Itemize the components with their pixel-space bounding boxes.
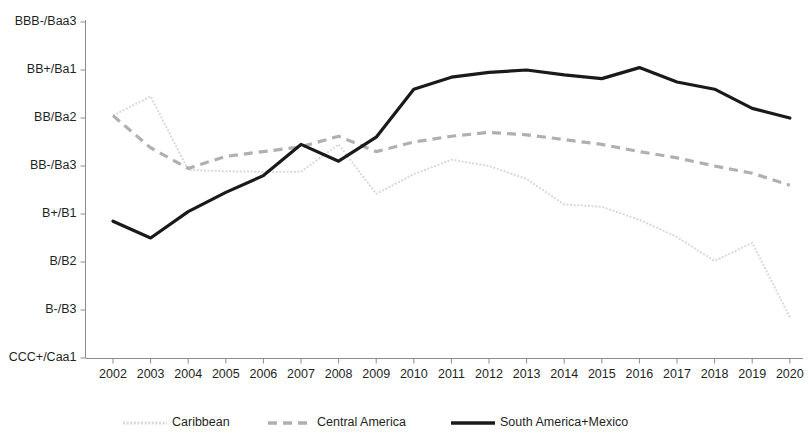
x-axis-tick-label: 2011 (438, 367, 465, 381)
chart-canvas: CCC+/Caa1B-/B3B/B2B+/B1BB-/Ba3BB/Ba2BB+/… (0, 0, 809, 437)
x-axis-tick-label: 2009 (362, 367, 390, 381)
y-axis-tick-label: BBB-/Baa3 (15, 14, 77, 28)
legend-item-caribbean: Caribbean (123, 415, 230, 429)
series-line-south-america-mexico (113, 68, 790, 238)
data-series-group (113, 68, 790, 318)
series-line-caribbean (113, 96, 790, 317)
y-axis-tick-labels: CCC+/Caa1B-/B3B/B2B+/B1BB-/Ba3BB/Ba2BB+/… (9, 14, 77, 364)
y-axis-ticks (81, 22, 86, 358)
x-axis: 2002200320042005200620072008200920102011… (86, 359, 804, 382)
chart-legend: Caribbean Central America South America+… (123, 415, 628, 429)
y-axis-tick-label: B/B2 (49, 254, 76, 268)
x-axis-tick-label: 2020 (776, 367, 804, 381)
y-axis-tick-label: BB/Ba2 (34, 110, 76, 124)
legend-label-caribbean: Caribbean (172, 415, 230, 429)
y-axis: CCC+/Caa1B-/B3B/B2B+/B1BB-/Ba3BB/Ba2BB+/… (9, 14, 86, 364)
legend-label-south-america-mexico: South America+Mexico (500, 415, 628, 429)
x-axis-tick-label: 2014 (550, 367, 578, 381)
x-axis-tick-label: 2003 (137, 367, 165, 381)
y-axis-tick-label: B+/B1 (42, 206, 76, 220)
y-axis-tick-label: CCC+/Caa1 (9, 350, 77, 364)
y-axis-tick-label: B-/B3 (45, 302, 76, 316)
x-axis-tick-label: 2002 (99, 367, 127, 381)
x-axis-tick-label: 2013 (513, 367, 541, 381)
x-axis-tick-label: 2015 (588, 367, 616, 381)
x-axis-tick-label: 2005 (212, 367, 240, 381)
x-axis-tick-label: 2007 (287, 367, 315, 381)
x-axis-tick-labels: 2002200320042005200620072008200920102011… (99, 367, 804, 381)
x-axis-tick-label: 2018 (701, 367, 729, 381)
x-axis-tick-label: 2016 (625, 367, 653, 381)
legend-label-central-america: Central America (317, 415, 406, 429)
x-axis-tick-label: 2004 (174, 367, 202, 381)
x-axis-tick-label: 2019 (738, 367, 766, 381)
x-axis-tick-label: 2012 (475, 367, 503, 381)
y-axis-tick-label: BB+/Ba1 (27, 62, 77, 76)
x-axis-tick-label: 2006 (249, 367, 277, 381)
x-axis-ticks (113, 359, 790, 364)
x-axis-tick-label: 2008 (325, 367, 353, 381)
rating-trend-chart: CCC+/Caa1B-/B3B/B2B+/B1BB-/Ba3BB/Ba2BB+/… (0, 0, 809, 437)
legend-item-south-america-mexico: South America+Mexico (451, 415, 628, 429)
series-line-central-america (113, 116, 790, 186)
x-axis-tick-label: 2010 (400, 367, 428, 381)
y-axis-tick-label: BB-/Ba3 (30, 158, 77, 172)
legend-item-central-america: Central America (268, 415, 406, 429)
x-axis-tick-label: 2017 (663, 367, 691, 381)
